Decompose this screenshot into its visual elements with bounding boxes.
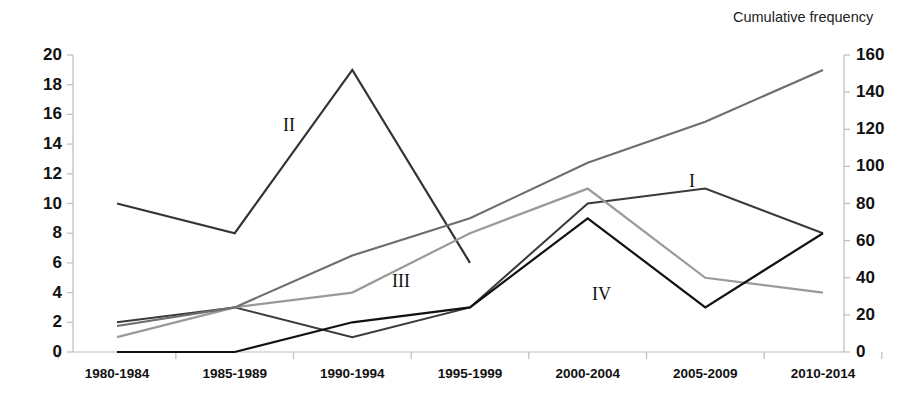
x-axis-label: 1985-1989 (175, 366, 295, 381)
right-tick-label: 120 (856, 120, 884, 137)
left-tick-label: 18 (10, 76, 62, 93)
right-tick-label: 80 (856, 195, 875, 212)
left-tick-label: 16 (10, 105, 62, 122)
right-tick-label: 160 (856, 46, 884, 63)
series-line-cumulative-frequency (117, 70, 823, 326)
left-tick-label: 0 (10, 343, 62, 360)
left-tick-label: 12 (10, 165, 62, 182)
right-tick-label: 100 (856, 157, 884, 174)
series-label-ii: II (283, 116, 295, 134)
series-label-iv: IV (592, 285, 611, 303)
right-tick-label: 140 (856, 83, 884, 100)
left-tick-label: 10 (10, 195, 62, 212)
right-tick-label: 60 (856, 232, 875, 249)
series-label-iii: III (392, 272, 410, 290)
x-axis-label: 2005-2009 (645, 366, 765, 381)
left-tick-label: 20 (10, 46, 62, 63)
left-tick-label: 14 (10, 135, 62, 152)
right-tick-label: 40 (856, 269, 875, 286)
series-line-iv (117, 218, 823, 352)
left-tick-label: 2 (10, 313, 62, 330)
x-axis-label: 1990-1994 (292, 366, 412, 381)
left-tick-label: 4 (10, 284, 62, 301)
right-tick-label: 0 (856, 343, 865, 360)
series-label-i: I (689, 172, 695, 190)
x-axis-label: 1980-1984 (57, 366, 177, 381)
right-tick-label: 20 (856, 306, 875, 323)
x-axis-label: 2010-2014 (763, 366, 883, 381)
x-axis-label: 1995-1999 (410, 366, 530, 381)
x-axis-label: 2000-2004 (528, 366, 648, 381)
left-tick-label: 6 (10, 254, 62, 271)
chart-container: Cumulative frequency 02468101214161820 0… (0, 0, 915, 414)
plot-area (0, 0, 915, 414)
left-tick-label: 8 (10, 224, 62, 241)
